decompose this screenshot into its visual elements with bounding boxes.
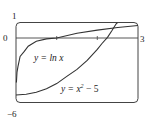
y-max-label: 1: [12, 11, 17, 21]
quad-curve-label: y = x2 − 5: [60, 83, 99, 94]
x-max-label: 3: [140, 34, 145, 44]
y-min-label: −6: [7, 109, 17, 119]
quad-curve-label-prefix: y = x: [60, 84, 81, 94]
y-zero-label: 0: [3, 33, 8, 43]
ln-curve-label: y = ln x: [33, 53, 64, 63]
chart: 1 0 3 −6 y = ln x y = x2 − 5: [0, 0, 147, 121]
quad-curve-label-suffix: − 5: [84, 84, 99, 94]
